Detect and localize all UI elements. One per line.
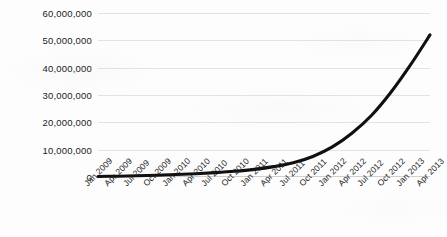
x-axis: Jan 2009Apr 2009Jul 2009Oct 2009Jan 2010… — [98, 177, 430, 237]
y-tick-label: 20,000,000 — [42, 117, 92, 128]
series-line — [98, 13, 430, 177]
y-axis: 010,000,00020,000,00030,000,00040,000,00… — [0, 0, 92, 237]
y-tick-label: 60,000,000 — [42, 8, 92, 19]
plot-area — [98, 13, 430, 177]
y-tick-label: 10,000,000 — [42, 144, 92, 155]
series-path — [98, 35, 430, 177]
y-tick-label: 40,000,000 — [42, 62, 92, 73]
line-chart: 010,000,00020,000,00030,000,00040,000,00… — [0, 0, 447, 237]
y-tick-label: 50,000,000 — [42, 35, 92, 46]
chart-screenshot: 010,000,00020,000,00030,000,00040,000,00… — [0, 0, 447, 237]
y-tick-label: 30,000,000 — [42, 90, 92, 101]
